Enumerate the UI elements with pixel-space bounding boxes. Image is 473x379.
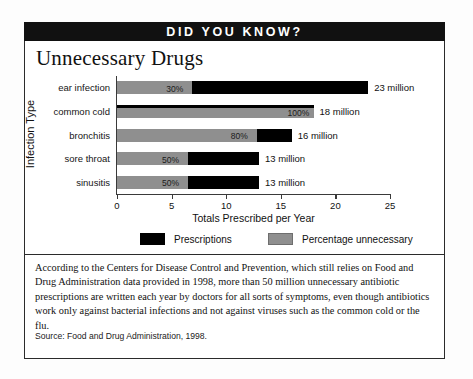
- x-axis-tick: [172, 194, 173, 199]
- bar-total-label: 23 million: [374, 82, 414, 93]
- x-axis-tick-label: 5: [169, 200, 174, 211]
- legend-swatch-prescriptions: [140, 233, 165, 245]
- chart-bar-row: 50%13 million: [117, 176, 390, 189]
- bar-percent-label: 30%: [166, 84, 183, 94]
- chart-bar-row: 80%16 million: [117, 129, 390, 142]
- category-label-column: ear infectioncommon coldbronchitissore t…: [0, 76, 110, 194]
- x-axis-line: [116, 194, 391, 195]
- legend-item-prescriptions: Prescriptions: [140, 233, 232, 245]
- x-axis-tick-label: 20: [330, 200, 341, 211]
- bar-percent-label: 80%: [231, 131, 248, 141]
- chart-bar-row: 30%23 million: [117, 81, 390, 94]
- x-axis-tick-label: 0: [114, 200, 119, 211]
- legend-label-unnecessary: Percentage unnecessary: [302, 234, 413, 245]
- bar-percentage-unnecessary: [117, 108, 314, 118]
- category-label: sinusitis: [76, 177, 110, 188]
- category-label: sore throat: [65, 153, 110, 164]
- bar-total-label: 16 million: [298, 130, 338, 141]
- chart-bar-row: 50%13 million: [117, 152, 390, 165]
- legend-item-unnecessary: Percentage unnecessary: [268, 233, 413, 245]
- legend-label-prescriptions: Prescriptions: [174, 234, 232, 245]
- plot-area: 30%23 million100%18 million80%16 million…: [117, 76, 390, 194]
- x-axis-tick: [226, 194, 227, 199]
- bar-total-label: 13 million: [265, 177, 305, 188]
- chart-bar-row: 100%18 million: [117, 105, 390, 118]
- category-label: ear infection: [58, 82, 110, 93]
- bar-total-label: 18 million: [320, 106, 360, 117]
- category-label: common cold: [54, 106, 111, 117]
- header-banner: DID YOU KNOW?: [24, 22, 445, 41]
- x-axis-tick-label: 15: [276, 200, 287, 211]
- x-axis-tick: [281, 194, 282, 199]
- x-axis-tick-label: 25: [385, 200, 396, 211]
- x-axis-label: Totals Prescribed per Year: [117, 212, 390, 224]
- page-title: Unnecessary Drugs: [36, 46, 203, 71]
- body-paragraph: According to the Centers for Disease Con…: [35, 261, 435, 333]
- x-axis-tick: [117, 194, 118, 199]
- bar-percent-label: 50%: [162, 155, 179, 165]
- bar-total-label: 13 million: [265, 153, 305, 164]
- x-axis-tick-label: 10: [221, 200, 232, 211]
- x-axis-tick: [390, 194, 391, 199]
- bar-percent-label: 50%: [162, 178, 179, 188]
- category-label: bronchitis: [69, 130, 110, 141]
- section-divider: [24, 254, 445, 255]
- y-axis-label: Infection Type: [24, 100, 36, 168]
- source-citation: Source: Food and Drug Administration, 19…: [35, 331, 207, 341]
- banner-title: DID YOU KNOW?: [166, 25, 302, 39]
- x-axis-tick: [335, 194, 336, 199]
- bar-percent-label: 100%: [288, 108, 310, 118]
- did-you-know-infographic: DID YOU KNOW? Unnecessary Drugs ear infe…: [0, 0, 473, 379]
- legend-swatch-unnecessary: [268, 233, 293, 245]
